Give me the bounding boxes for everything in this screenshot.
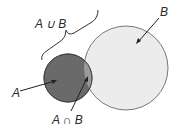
set-b-label: B bbox=[160, 5, 168, 19]
set-b-circle bbox=[84, 26, 168, 110]
intersection-label: A ∩ B bbox=[52, 113, 83, 127]
union-label: A ∪ B bbox=[35, 17, 66, 31]
venn-diagram: A ∪ B B A A ∩ B bbox=[0, 0, 182, 133]
set-a-label: A bbox=[12, 86, 20, 100]
venn-graphic bbox=[0, 0, 182, 133]
